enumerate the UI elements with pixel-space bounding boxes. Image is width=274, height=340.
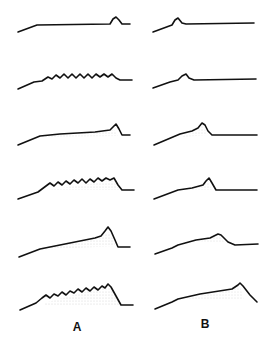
profile-b-2 [153,74,256,88]
profile-a-6 [20,284,133,310]
profile-a-1 [18,17,130,32]
profile-a-3 [18,124,130,145]
profile-b-3 [154,123,257,145]
profile-b-1 [153,18,254,32]
profile-diagram [0,0,274,340]
profile-a-2 [18,74,132,89]
profile-a-4 [18,178,134,199]
column-label-a: A [67,320,87,334]
profile-a-5 [19,227,130,257]
profile-b-4 [154,178,257,199]
profile-b-5 [155,234,258,254]
profile-b-6 [155,283,257,309]
column-label-b: B [195,317,215,331]
